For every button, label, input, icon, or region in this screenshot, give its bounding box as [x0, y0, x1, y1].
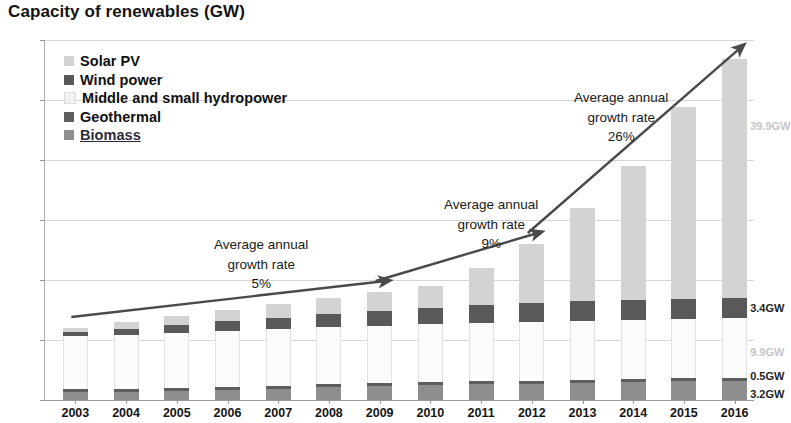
legend-item-geothermal[interactable]: Geothermal [64, 108, 287, 127]
legend-swatch-icon [64, 75, 74, 85]
x-tick-mark-2009 [380, 400, 381, 404]
x-tick-mark-2004 [126, 400, 127, 404]
y-tick-mark-0 [40, 400, 45, 401]
x-tick-label-2003: 2003 [61, 406, 89, 420]
gridline-0 [44, 400, 754, 401]
growth-rate-2-line-1: Average annual [444, 195, 538, 215]
growth-rate-3-line-1: Average annual [574, 88, 668, 108]
hydro-2016-label: 9.9GW [750, 346, 784, 358]
growth-rate-3: Average annualgrowth rate26% [574, 88, 668, 147]
x-tick-label-2015: 2015 [670, 406, 698, 420]
legend-item-label: Wind power [80, 72, 163, 88]
growth-rate-1-line-1: Average annual [214, 235, 308, 255]
x-tick-mark-2016 [735, 400, 736, 404]
biomass-2016-label: 3.2GW [750, 388, 784, 400]
x-tick-mark-2013 [583, 400, 584, 404]
legend-item-label: Solar PV [80, 53, 140, 69]
x-tick-label-2011: 2011 [468, 406, 495, 420]
legend-swatch-icon [64, 56, 74, 66]
x-tick-label-2010: 2010 [416, 406, 444, 420]
x-tick-mark-2011 [481, 400, 482, 404]
x-tick-label-2004: 2004 [112, 406, 140, 420]
x-tick-mark-2008 [329, 400, 330, 404]
legend-item-label: Geothermal [80, 109, 161, 125]
growth-rate-2: Average annualgrowth rate9% [444, 195, 538, 254]
x-tick-label-2006: 2006 [214, 406, 242, 420]
legend-item-wind-power[interactable]: Wind power [64, 71, 287, 90]
x-tick-label-2009: 2009 [366, 406, 394, 420]
geothermal-2016-label: 0.5GW [750, 370, 784, 382]
chart-legend: Solar PVWind powerMiddle and small hydro… [64, 52, 287, 145]
solar-2016-label: 39.9GW [750, 120, 790, 132]
legend-item-biomass[interactable]: Biomass [64, 126, 287, 145]
legend-swatch-icon [64, 112, 74, 122]
growth-rate-1-line-3: 5% [214, 274, 308, 294]
legend-item-solar-pv[interactable]: Solar PV [64, 52, 287, 71]
legend-item-middle-and-small-hydropower[interactable]: Middle and small hydropower [64, 89, 287, 108]
x-tick-mark-2005 [177, 400, 178, 404]
x-tick-label-2005: 2005 [163, 406, 191, 420]
growth-rate-3-line-2: growth rate [574, 108, 668, 128]
x-tick-label-2013: 2013 [569, 406, 597, 420]
x-tick-mark-2010 [430, 400, 431, 404]
legend-swatch-icon [64, 92, 76, 104]
x-tick-mark-2003 [75, 400, 76, 404]
x-tick-mark-2014 [633, 400, 634, 404]
growth-rate-1: Average annualgrowth rate5% [214, 235, 308, 294]
x-tick-mark-2006 [228, 400, 229, 404]
growth-rate-2-line-2: growth rate [444, 215, 538, 235]
x-tick-label-2016: 2016 [721, 406, 749, 420]
x-tick-mark-2015 [684, 400, 685, 404]
x-tick-label-2008: 2008 [315, 406, 343, 420]
legend-swatch-icon [64, 130, 74, 140]
x-tick-label-2014: 2014 [619, 406, 647, 420]
growth-rate-3-line-3: 26% [574, 127, 668, 147]
legend-item-label: Middle and small hydropower [82, 90, 287, 106]
x-tick-mark-2007 [278, 400, 279, 404]
chart-title: Capacity of renewables (GW) [8, 2, 245, 22]
legend-item-label: Biomass [80, 127, 141, 143]
growth-rate-2-line-3: 9% [444, 234, 538, 254]
x-tick-label-2012: 2012 [518, 406, 546, 420]
x-tick-mark-2012 [532, 400, 533, 404]
growth-rate-1-line-2: growth rate [214, 255, 308, 275]
wind-2016-label: 3.4GW [750, 302, 784, 314]
x-tick-label-2007: 2007 [264, 406, 292, 420]
